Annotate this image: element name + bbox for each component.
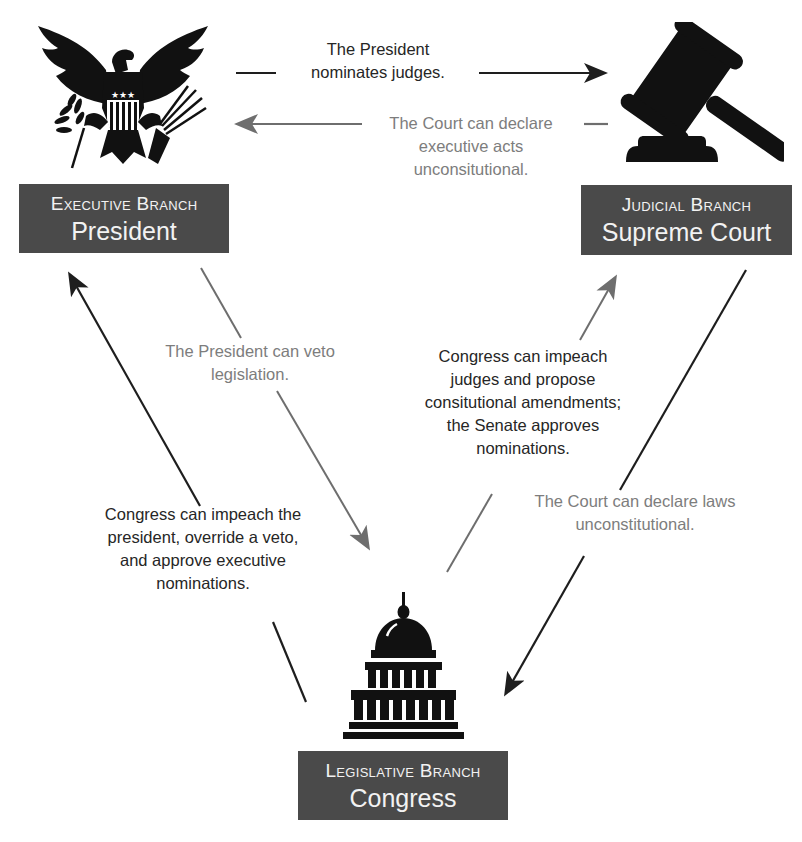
judicial-branch-box: Judicial Branch Supreme Court xyxy=(581,185,792,255)
label-exec-to-legislative: The President can veto legislation. xyxy=(140,340,360,386)
capitol-dome-icon xyxy=(341,592,466,740)
executive-branch-label: Executive Branch xyxy=(51,192,198,216)
label-legislative-to-judicial: Congress can impeach judges and propose … xyxy=(398,345,648,460)
label-judicial-to-exec: The Court can declare executive acts unc… xyxy=(358,112,584,181)
legislative-branch-box: Legislative Branch Congress xyxy=(298,751,508,820)
legislative-branch-label: Legislative Branch xyxy=(325,759,480,783)
eagle-seal-icon: ★★★ xyxy=(28,18,218,170)
svg-text:★★★: ★★★ xyxy=(111,90,135,100)
judicial-branch-label: Judicial Branch xyxy=(622,193,751,217)
checks-and-balances-diagram: ★★★ xyxy=(0,0,802,842)
executive-branch-box: Executive Branch President xyxy=(19,184,229,253)
executive-branch-name: President xyxy=(71,216,177,246)
label-exec-to-judicial: The President nominates judges. xyxy=(278,38,478,84)
label-judicial-to-legislative: The Court can declare laws unconstitutio… xyxy=(510,490,760,536)
judicial-branch-name: Supreme Court xyxy=(602,217,772,247)
arrow-judicial-to-legislative xyxy=(506,270,746,693)
label-legislative-to-exec: Congress can impeach the president, over… xyxy=(76,503,330,595)
gavel-icon xyxy=(604,22,784,172)
legislative-branch-name: Congress xyxy=(350,783,457,813)
